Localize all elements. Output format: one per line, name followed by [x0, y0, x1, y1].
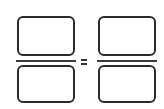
right-numerator-box[interactable]	[98, 16, 156, 56]
right-fraction-bar	[97, 60, 157, 62]
right-denominator-box[interactable]	[98, 65, 156, 103]
left-fraction-bar	[16, 60, 76, 62]
left-denominator-box[interactable]	[17, 65, 75, 103]
equals-line-top	[81, 59, 87, 61]
left-numerator-box[interactable]	[17, 16, 75, 56]
equals-line-bottom	[81, 63, 87, 65]
